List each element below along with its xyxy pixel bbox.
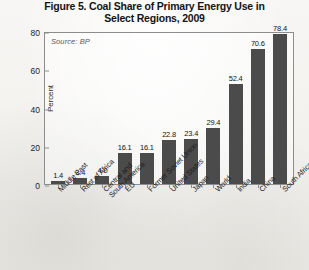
bar-value-label: 22.8 <box>162 130 176 139</box>
bar-value-label: 70.6 <box>251 39 265 48</box>
chart-figure: Figure 5. Coal Share of Primary Energy U… <box>0 0 309 270</box>
bar-value-label: 16.1 <box>140 143 154 152</box>
bar[interactable]: 52.4 <box>229 84 243 184</box>
chart-title: Figure 5. Coal Share of Primary Energy U… <box>0 1 309 24</box>
chart-title-line-2: Select Regions, 2009 <box>0 13 309 25</box>
bar-slot: 52.4 <box>225 33 247 184</box>
bar-slot: 29.4 <box>202 33 224 184</box>
bar-value-label: 1.4 <box>53 171 63 180</box>
bar-value-label: 16.1 <box>118 143 132 152</box>
x-axis-category-slot: Japan <box>180 186 202 268</box>
x-axis-category-slot: World <box>203 186 225 268</box>
x-axis-category-slot: South Africa <box>270 186 292 268</box>
chart-title-line-1: Figure 5. Coal Share of Primary Energy U… <box>44 0 264 12</box>
x-axis-category-slot: Rest of Africa <box>68 186 90 268</box>
y-axis-tick-label: 20 <box>31 143 45 153</box>
bar-value-label: 23.4 <box>184 129 198 138</box>
x-axis-category-slot: India <box>225 186 247 268</box>
bar[interactable]: 78.4 <box>273 34 287 184</box>
x-axis-category-slot: Former Soviet Union <box>135 186 157 268</box>
x-axis-category-slot: EU <box>113 186 135 268</box>
bar[interactable]: 29.4 <box>206 128 220 184</box>
bar-value-label: 29.4 <box>207 118 221 127</box>
bar-value-label: 52.4 <box>229 74 243 83</box>
x-axis-category-slot: Middle East <box>46 186 68 268</box>
x-axis-category-slot: United States <box>158 186 180 268</box>
x-axis-category-slot: Central andSouth America <box>91 186 113 268</box>
y-axis-tick-label: 80 <box>31 28 45 38</box>
y-axis-tick-label: 40 <box>31 105 45 115</box>
bar-slot: 78.4 <box>269 33 291 184</box>
x-axis-category-labels: Middle EastRest of AfricaCentral andSout… <box>44 186 294 268</box>
bar-slot: 1.4 <box>47 33 69 184</box>
x-axis-category-slot: China <box>247 186 269 268</box>
bar[interactable]: 70.6 <box>251 49 265 184</box>
bar-slot: 70.6 <box>247 33 269 184</box>
bar-value-label: 78.4 <box>273 24 287 33</box>
y-axis-tick-label: 60 <box>31 66 45 76</box>
